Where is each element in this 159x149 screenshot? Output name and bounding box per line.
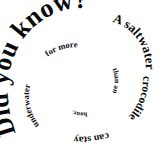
spiral-segment-fact-3: can stay	[73, 131, 111, 146]
spiral-segment-fact-4: underwater	[21, 83, 41, 130]
spiral-fact-6-text: than an	[111, 67, 122, 95]
spiral-fact-4-text: underwater	[21, 83, 41, 130]
spiral-segment-fact-1: A saltwater	[111, 11, 158, 71]
spiral-fact-5-text: for more	[43, 39, 78, 58]
spiral-headline-text: Did you know?	[0, 0, 88, 140]
spiral-fact-7-text: hour.	[70, 109, 87, 118]
spiral-segment-fact-2: crocodile	[127, 76, 153, 123]
spiral-fact-1-text: A saltwater	[111, 11, 158, 71]
spiral-segment-fact-5: for more	[43, 39, 78, 58]
spiral-segments-group: Did you know? A saltwater crocodile can …	[0, 0, 158, 146]
spiral-fact-2-text: crocodile	[127, 76, 153, 123]
spiral-text-svg: Did you know? A saltwater crocodile can …	[0, 0, 159, 149]
spiral-segment-headline: Did you know?	[0, 0, 88, 140]
spiral-segment-fact-6: than an	[111, 67, 122, 95]
spiral-graphic-canvas: Did you know? A saltwater crocodile can …	[0, 0, 159, 149]
spiral-segment-fact-7: hour.	[70, 109, 87, 118]
spiral-fact-3-text: can stay	[73, 131, 111, 146]
